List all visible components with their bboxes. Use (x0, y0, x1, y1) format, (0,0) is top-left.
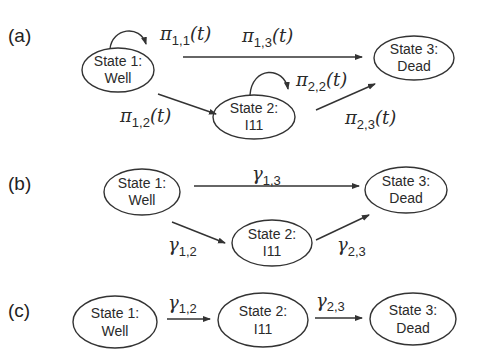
state-2-title: State 2: (248, 226, 296, 242)
self-loop-1-arrow (110, 31, 146, 49)
state-1-name: Well (102, 323, 129, 339)
state-2-title: State 2: (230, 100, 278, 116)
state-2-name: I11 (263, 243, 282, 259)
state-3-name: Dead (397, 58, 430, 74)
state-2-title: State 2: (239, 303, 287, 319)
panel-c-state-2-node: State 2: I11 (218, 293, 308, 347)
panel-a-state-1-node: State 1: Well (82, 48, 154, 92)
pi-1-2-label: π1,2(t) (119, 105, 171, 130)
pi-1-3-label: π1,3(t) (241, 25, 293, 50)
state-3-name: Dead (396, 320, 429, 336)
state-2-name: I11 (245, 117, 264, 133)
arrow-1-to-2 (172, 222, 225, 243)
state-3-title: State 3: (389, 302, 437, 318)
state-1-title: State 1: (118, 175, 166, 191)
panel-b-state-1-node: State 1: Well (104, 169, 180, 215)
panel-b-state-3-node: State 3: Dead (365, 167, 447, 213)
state-1-title: State 1: (94, 53, 142, 69)
panel-a-state-3-node: State 3: Dead (374, 36, 454, 80)
state-1-name: Well (105, 70, 132, 86)
pi-1-1-label: π1,1(t) (159, 23, 211, 48)
panel-b-state-2-node: State 2: I11 (232, 220, 312, 266)
state-3-name: Dead (389, 190, 422, 206)
panel-a: (a) State 1: Well π1,1(t) State 3: Dead … (8, 23, 454, 139)
self-loop-2-arrow (250, 72, 288, 95)
state-2-name: I11 (254, 321, 273, 337)
gamma-1-2-label: γ1,2 (168, 292, 197, 316)
pi-2-2-label: π2,2(t) (295, 69, 347, 94)
pi-2-3-label: π2,3(t) (344, 107, 396, 132)
panel-c-label: (c) (8, 300, 30, 321)
state-3-title: State 3: (390, 41, 438, 57)
panel-c-state-1-node: State 1: Well (73, 296, 157, 348)
panel-c: (c) State 1: Well State 2: I11 State 3: … (8, 290, 456, 348)
state-3-title: State 3: (382, 173, 430, 189)
state-1-title: State 1: (91, 305, 139, 321)
panel-a-state-2-node: State 2: I11 (213, 95, 295, 139)
state-1-name: Well (129, 192, 156, 208)
gamma-2-3-label: γ2,3 (316, 290, 345, 314)
gamma-1-3-label: γ1,3 (252, 163, 281, 188)
gamma-1-2-label: γ1,2 (168, 234, 197, 259)
panel-c-state-3-node: State 3: Dead (370, 293, 456, 345)
panel-a-label: (a) (8, 25, 31, 46)
gamma-2-3-label: γ2,3 (337, 234, 366, 259)
multistate-model-diagram: (a) State 1: Well π1,1(t) State 3: Dead … (0, 0, 480, 357)
panel-b: (b) State 1: Well State 3: Dead State 2:… (8, 163, 447, 266)
panel-b-label: (b) (8, 173, 31, 194)
